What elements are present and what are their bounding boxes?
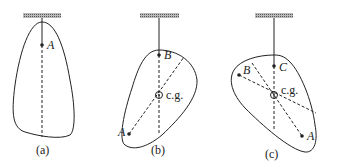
point-b-label: B: [243, 63, 251, 77]
ceiling-support: [23, 13, 61, 18]
panel-b: B A c.g. (b): [117, 13, 197, 157]
point-a-label: A: [46, 38, 55, 52]
point-a-label: A: [306, 129, 315, 143]
ceiling-support: [140, 13, 179, 18]
panel-a: A (a): [13, 13, 74, 157]
irregular-body: [13, 22, 74, 137]
plumb-line-a: [252, 63, 302, 136]
panel-c: C B A c.g. (c): [231, 13, 316, 161]
cg-label: c.g.: [166, 88, 183, 102]
point-b-label: B: [164, 48, 172, 62]
cg-label: c.g.: [281, 83, 298, 97]
ceiling-support: [255, 13, 293, 18]
point-c-dot: [272, 64, 276, 68]
caption-b: (b): [151, 143, 165, 157]
point-a-dot: [300, 134, 304, 138]
point-b-dot: [237, 73, 241, 77]
point-a-label: A: [117, 125, 126, 139]
point-a-dot: [40, 43, 44, 47]
caption-a: (a): [36, 143, 49, 157]
center-of-gravity-figure: A (a) B A c.g. (b) C B: [0, 0, 340, 165]
point-b-dot: [157, 53, 161, 57]
point-c-label: C: [279, 60, 288, 74]
point-a-dot: [127, 132, 131, 136]
caption-c: (c): [265, 147, 278, 161]
